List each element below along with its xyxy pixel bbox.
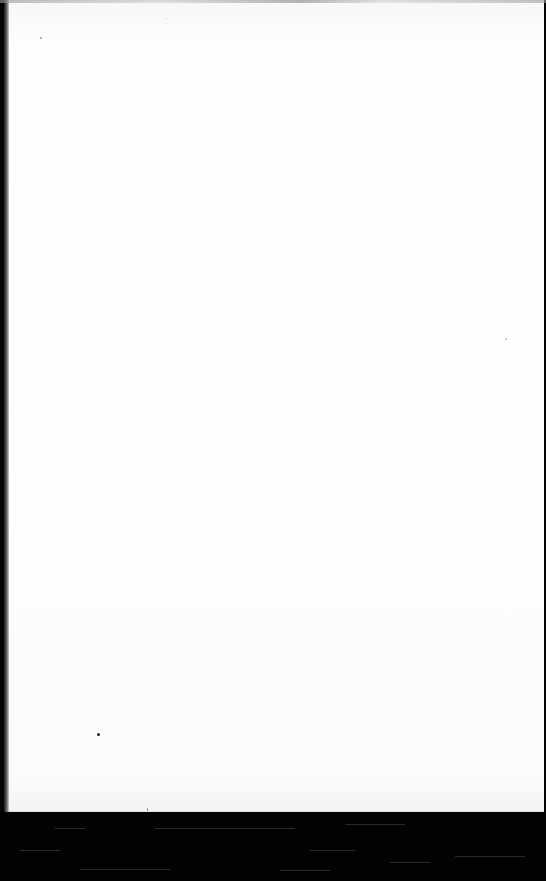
blank-page [4, 0, 544, 812]
dust-speck [147, 808, 148, 811]
page-top-edge-shadow [0, 0, 546, 3]
scanned-document [0, 0, 546, 881]
scan-streak [390, 862, 430, 863]
scan-streak [310, 850, 355, 851]
scan-streak [280, 870, 330, 871]
scanner-bottom-border [0, 812, 546, 881]
dust-speck [166, 18, 167, 19]
page-left-edge-shadow [4, 0, 9, 812]
scan-streak [155, 828, 295, 829]
dust-speck [505, 338, 507, 340]
scan-streak [345, 824, 405, 825]
ink-speck [97, 733, 100, 736]
scan-streak [455, 856, 525, 857]
dust-speck [40, 37, 42, 39]
scan-streak [55, 828, 85, 829]
scan-streak [20, 850, 60, 851]
scan-streak [80, 869, 170, 870]
